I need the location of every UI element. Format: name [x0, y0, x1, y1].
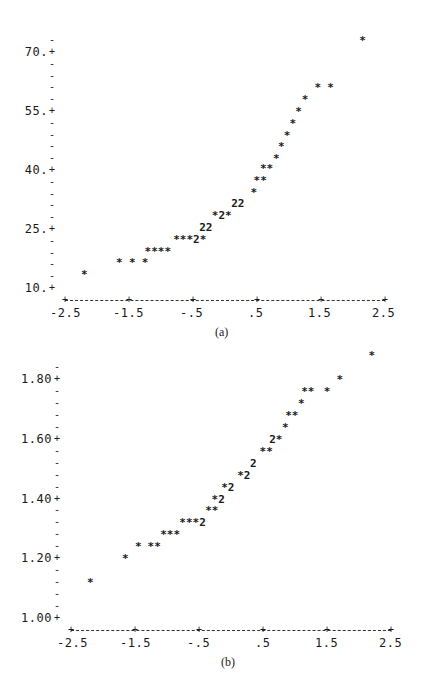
- y-minor-tick: -: [54, 565, 60, 575]
- x-tick-label: -1.5: [120, 637, 151, 649]
- y-minor-tick: -: [54, 422, 60, 432]
- data-point: *: [368, 350, 375, 361]
- x-axis-line: [71, 630, 391, 631]
- data-point: **: [285, 409, 298, 420]
- x-tick-label: 1.5: [315, 637, 338, 649]
- data-point: ***2: [179, 517, 206, 528]
- data-point: *2: [237, 469, 250, 480]
- data-point: *: [87, 577, 94, 588]
- data-point: *: [282, 421, 289, 432]
- data-point: 2*: [269, 433, 282, 444]
- y-major-tick: +: [54, 494, 60, 504]
- data-point: **: [301, 385, 314, 396]
- x-tick-label: -2.5: [57, 637, 88, 649]
- x-major-tick: +: [324, 625, 330, 635]
- data-point: *: [298, 397, 305, 408]
- y-minor-tick: -: [54, 386, 60, 396]
- x-major-tick: +: [196, 625, 202, 635]
- y-minor-tick: -: [54, 541, 60, 551]
- y-major-tick: +: [54, 613, 60, 623]
- y-minor-tick: -: [54, 505, 60, 515]
- y-minor-tick: -: [54, 458, 60, 468]
- y-minor-tick: -: [54, 601, 60, 611]
- y-major-tick: +: [54, 434, 60, 444]
- data-point: *: [324, 385, 331, 396]
- x-tick-label: -.5: [187, 637, 210, 649]
- y-major-tick: +: [54, 374, 60, 384]
- y-tick-label: 1.00: [10, 612, 52, 624]
- x-major-tick: +: [68, 625, 74, 635]
- y-minor-tick: -: [54, 470, 60, 480]
- data-point: **: [205, 505, 218, 516]
- y-minor-tick: -: [54, 446, 60, 456]
- y-tick-label: 1.20: [10, 552, 52, 564]
- y-minor-tick: -: [54, 577, 60, 587]
- data-point: *2: [221, 481, 234, 492]
- y-minor-tick: -: [54, 517, 60, 527]
- x-tick-label: 2.5: [379, 637, 402, 649]
- x-tick-label: .5: [255, 637, 270, 649]
- data-point: ***: [160, 529, 180, 540]
- y-minor-tick: -: [54, 398, 60, 408]
- x-major-tick: +: [260, 625, 266, 635]
- data-point: *: [122, 553, 129, 564]
- data-point: **: [260, 445, 273, 456]
- data-point: *: [336, 374, 343, 385]
- data-point: 2: [250, 457, 257, 468]
- plot-b: 1.80 1.60 1.40 1.20 1.00 +----+----+----…: [0, 0, 424, 677]
- y-minor-tick: -: [54, 482, 60, 492]
- x-major-tick: +: [388, 625, 394, 635]
- plot-caption: (b): [221, 655, 235, 670]
- y-minor-tick: -: [54, 410, 60, 420]
- y-minor-tick: -: [54, 529, 60, 539]
- y-tick-label: 1.40: [10, 493, 52, 505]
- data-point: *2: [212, 493, 225, 504]
- data-point: **: [148, 541, 161, 552]
- y-tick-label: 1.60: [10, 433, 52, 445]
- y-major-tick: +: [54, 553, 60, 563]
- y-minor-tick: -: [54, 362, 60, 372]
- y-tick-label: 1.80: [10, 373, 52, 385]
- x-major-tick: +: [132, 625, 138, 635]
- data-point: *: [135, 541, 142, 552]
- y-minor-tick: -: [54, 589, 60, 599]
